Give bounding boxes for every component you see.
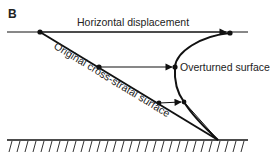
overturned-surface-curve (175, 33, 230, 140)
top-displaced-dot (227, 30, 232, 35)
ground-surface (7, 140, 248, 152)
horizontal-displacement-label: Horizontal displacement (77, 16, 189, 28)
mid-origin-dot (96, 64, 101, 69)
panel-label: B (8, 7, 17, 21)
overturned-cross-strata-diagram: B Horizontal displacement Original cross… (0, 0, 274, 160)
low-displaced-dot (182, 100, 187, 105)
low-origin-dot (157, 101, 162, 106)
mid-displaced-dot (172, 64, 177, 69)
original-surface-label: Original cross-stratal surface (52, 39, 173, 119)
overturned-surface-label: Overturned surface (180, 61, 270, 73)
top-origin-dot (37, 29, 42, 34)
lower-convergence-line (184, 102, 218, 140)
